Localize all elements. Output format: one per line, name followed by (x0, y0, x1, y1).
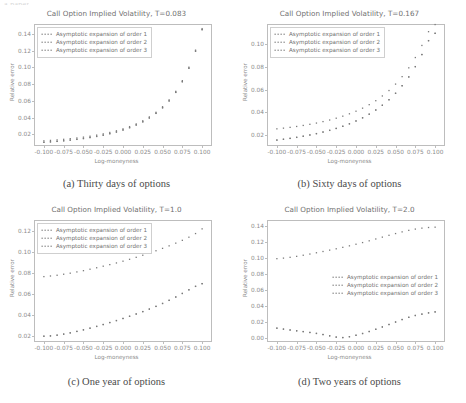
legend-label: Asymptotic expansion of order 1 (53, 31, 147, 37)
series-1 (276, 227, 436, 260)
legend-item-order-2: Asymptotic expansion of order 2 (40, 234, 147, 242)
figure-panel-d: Call Option Implied Volatility, T=2.00.0… (233, 202, 466, 403)
legend-label: Asymptotic expansion of order 2 (344, 282, 438, 288)
series-2 (43, 283, 203, 337)
legend-label: Asymptotic expansion of order 3 (286, 47, 380, 53)
series-2 (276, 311, 436, 338)
legend-item-order-3: Asymptotic expansion of order 3 (40, 46, 147, 54)
legend-item-order-3: Asymptotic expansion of order 3 (331, 289, 438, 297)
chart-a: Call Option Implied Volatility, T=0.0830… (0, 6, 233, 178)
legend-marker-icon (40, 226, 53, 234)
caption-c: (c) One year of options (0, 376, 233, 387)
legend-marker-icon (331, 273, 344, 281)
figure-panel-b: Call Option Implied Volatility, T=0.1670… (233, 6, 466, 202)
figure-grid: Call Option Implied Volatility, T=0.0830… (0, 6, 466, 403)
legend-item-order-3: Asymptotic expansion of order 3 (40, 242, 147, 250)
legend-marker-icon (331, 289, 344, 297)
legend-marker-icon (273, 38, 286, 46)
legend-item-order-1: Asymptotic expansion of order 1 (40, 226, 147, 234)
legend-item-order-2: Asymptotic expansion of order 2 (331, 281, 438, 289)
chart-c: Call Option Implied Volatility, T=1.00.0… (0, 202, 233, 374)
legend-marker-icon (40, 46, 53, 54)
legend-marker-icon (40, 242, 53, 250)
legend-item-order-1: Asymptotic expansion of order 1 (331, 273, 438, 281)
caption-d: (d) Two years of options (233, 376, 466, 387)
legend-item-order-2: Asymptotic expansion of order 2 (40, 38, 147, 46)
legend-item-order-1: Asymptotic expansion of order 1 (273, 30, 380, 38)
legend-marker-icon (40, 38, 53, 46)
chart-legend: Asymptotic expansion of order 1Asymptoti… (37, 27, 152, 58)
legend-label: Asymptotic expansion of order 3 (344, 290, 438, 296)
series-3 (276, 311, 436, 338)
legend-label: Asymptotic expansion of order 1 (53, 227, 147, 233)
legend-marker-icon (40, 30, 53, 38)
legend-label: Asymptotic expansion of order 2 (53, 235, 147, 241)
figure-panel-a: Call Option Implied Volatility, T=0.0830… (0, 6, 233, 202)
legend-label: Asymptotic expansion of order 1 (286, 31, 380, 37)
chart-legend: Asymptotic expansion of order 1Asymptoti… (270, 27, 385, 58)
series-3 (43, 283, 203, 337)
legend-marker-icon (273, 46, 286, 54)
legend-label: Asymptotic expansion of order 2 (286, 39, 380, 45)
chart-b: Call Option Implied Volatility, T=0.1670… (233, 6, 466, 178)
legend-label: Asymptotic expansion of order 1 (344, 274, 438, 280)
chart-legend: Asymptotic expansion of order 1Asymptoti… (329, 272, 440, 299)
legend-label: Asymptotic expansion of order 2 (53, 39, 147, 45)
chart-legend: Asymptotic expansion of order 1Asymptoti… (37, 223, 152, 254)
chart-d: Call Option Implied Volatility, T=2.00.0… (233, 202, 466, 374)
figure-panel-c: Call Option Implied Volatility, T=1.00.0… (0, 202, 233, 403)
legend-label: Asymptotic expansion of order 3 (53, 243, 147, 249)
legend-item-order-3: Asymptotic expansion of order 3 (273, 46, 380, 54)
caption-a: (a) Thirty days of options (0, 178, 233, 189)
legend-marker-icon (273, 30, 286, 38)
legend-item-order-2: Asymptotic expansion of order 2 (273, 38, 380, 46)
legend-marker-icon (331, 281, 344, 289)
caption-b: (b) Sixty days of options (233, 178, 466, 189)
cutoff-header-text: a paper (4, 0, 29, 5)
legend-marker-icon (40, 234, 53, 242)
legend-label: Asymptotic expansion of order 3 (53, 47, 147, 53)
legend-item-order-1: Asymptotic expansion of order 1 (40, 30, 147, 38)
